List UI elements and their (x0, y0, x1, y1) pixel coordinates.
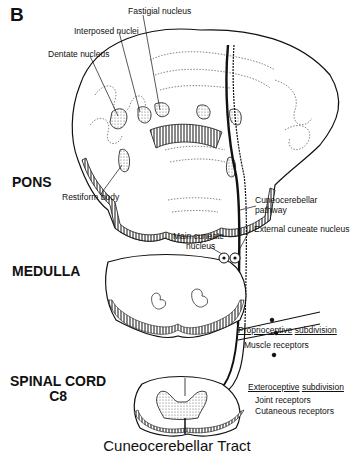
label-external-cuneate-nucleus: External cuneate nucleus (254, 225, 349, 234)
panel-letter: B (10, 4, 24, 26)
cerebellum-pons-section (72, 29, 338, 243)
label-main-cuneate-2: nucleus (186, 242, 215, 251)
dentate-nucleus-shape (110, 109, 127, 129)
label-exteroceptive-word: Exteroceptive (248, 382, 300, 392)
label-cuneocerebellar-pathway-1: Cuneocerebellar (255, 196, 317, 205)
label-joint-receptors: Joint receptors (255, 396, 311, 405)
label-restiform-body: Restiform body (62, 193, 119, 202)
label-proprioceptive-subdivision: Proprioceptive subdivision (238, 326, 337, 335)
figure-title: Cuneocerebellar Tract (0, 437, 354, 454)
interposed-nuclei-shape (138, 107, 151, 123)
region-pons: PONS (12, 175, 52, 190)
spinal-cord-section (134, 377, 244, 437)
label-interposed-nuclei: Interposed nuclei (74, 27, 139, 36)
region-medulla: MEDULLA (12, 264, 80, 279)
fastigial-nucleus-shape (155, 103, 169, 117)
label-muscle-receptors: Muscle receptors (244, 341, 309, 350)
medulla-section (106, 253, 246, 337)
label-cutaneous-receptors: Cutaneous receptors (255, 407, 334, 416)
label-proprioceptive-word: Proprioceptive (238, 325, 292, 335)
label-cuneocerebellar-pathway-2: pathway (255, 206, 287, 215)
label-main-cuneate-1: Main cuneate (173, 232, 224, 241)
label-exteroceptive-subdivision: Exteroceptive subdivision (248, 383, 344, 392)
region-spinal-cord-line2: C8 (10, 389, 106, 404)
region-spinal-cord: SPINAL CORD C8 (10, 374, 106, 403)
label-proprioceptive-sub: subdivision (295, 325, 337, 335)
label-exteroceptive-sub: subdivision (302, 382, 344, 392)
label-dentate-nucleus: Dentate nucleus (48, 50, 109, 59)
label-fastigial-nucleus: Fastigial nucleus (128, 7, 191, 16)
region-spinal-cord-line1: SPINAL CORD (10, 374, 106, 389)
